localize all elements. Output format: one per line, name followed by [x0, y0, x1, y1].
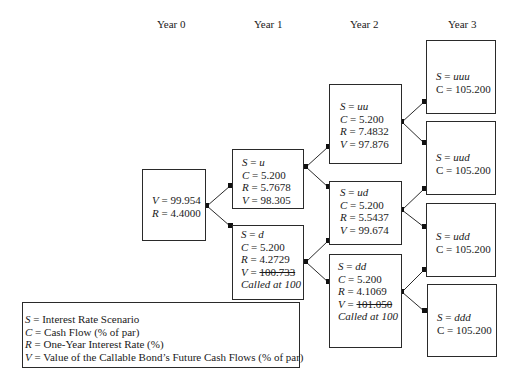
node-ud: S = ud C = 5.200 R = 5.5437 V = 99.674 — [329, 181, 402, 245]
node-root: V = 99.954 R = 4.4000 — [142, 169, 206, 241]
node-uud: S = uud C = 105.200 — [426, 121, 496, 195]
node-uu-scenario: S = uu — [340, 100, 389, 113]
node-uuu: S = uuu C = 105.200 — [426, 40, 496, 114]
node-ud-cashflow: C = 5.200 — [340, 199, 389, 212]
node-ddd-scenario: S = ddd — [437, 311, 492, 324]
node-u-cashflow: C = 5.200 — [242, 169, 291, 182]
node-u-value: V = 98.305 — [242, 194, 291, 207]
node-u: S = u C = 5.200 R = 5.7678 V = 98.305 — [232, 149, 304, 209]
node-d-cashflow: C = 5.200 — [241, 241, 301, 254]
node-dd: S = dd C = 5.200 R = 4.1069 V = 101.050 … — [329, 254, 402, 348]
root-value: V = 99.954 — [152, 194, 201, 207]
node-ud-value: V = 99.674 — [340, 224, 389, 237]
node-udd: S = udd C = 105.200 — [426, 203, 496, 277]
root-rate: R = 4.4000 — [152, 207, 201, 220]
node-uuu-cashflow: C = 105.200 — [436, 83, 491, 96]
node-u-rate: R = 5.7678 — [242, 181, 291, 194]
node-dd-scenario: S = dd — [338, 260, 398, 273]
node-d-called-note: Called at 100 — [241, 278, 301, 291]
node-uud-scenario: S = uud — [436, 151, 491, 164]
legend-item-value: V = Value of the Callable Bond’s Future … — [25, 351, 304, 364]
node-uuu-scenario: S = uuu — [436, 70, 491, 83]
node-udd-cashflow: C = 105.200 — [436, 243, 491, 256]
node-udd-scenario: S = udd — [436, 230, 491, 243]
legend: S = Interest Rate Scenario C = Cash Flow… — [22, 302, 300, 368]
node-dd-called-note: Called at 100 — [338, 310, 398, 323]
node-dd-cashflow: C = 5.200 — [338, 273, 398, 286]
node-d: S = d C = 5.200 R = 4.2729 V = 100.733 C… — [232, 225, 304, 300]
legend-item-scenario: S = Interest Rate Scenario — [25, 313, 304, 326]
legend-item-rate: R = One-Year Interest Rate (%) — [25, 338, 304, 351]
node-dd-rate: R = 4.1069 — [338, 285, 398, 298]
node-d-scenario: S = d — [241, 228, 301, 241]
node-dd-value: V = 101.050 — [338, 298, 398, 311]
node-uu-cashflow: C = 5.200 — [340, 113, 389, 126]
node-d-rate: R = 4.2729 — [241, 253, 301, 266]
node-ddd: S = ddd C = 105.200 — [427, 284, 497, 357]
node-u-scenario: S = u — [242, 156, 291, 169]
node-uud-cashflow: C = 105.200 — [436, 164, 491, 177]
node-uu-rate: R = 7.4832 — [340, 125, 389, 138]
node-ud-rate: R = 5.5437 — [340, 211, 389, 224]
legend-item-cashflow: C = Cash Flow (% of par) — [25, 326, 304, 339]
node-ddd-cashflow: C = 105.200 — [437, 324, 492, 337]
node-ud-scenario: S = ud — [340, 186, 389, 199]
node-d-value: V = 100.733 — [241, 266, 301, 279]
node-uu-value: V = 97.876 — [340, 138, 389, 151]
node-uu: S = uu C = 5.200 R = 7.4832 V = 97.876 — [329, 84, 402, 164]
